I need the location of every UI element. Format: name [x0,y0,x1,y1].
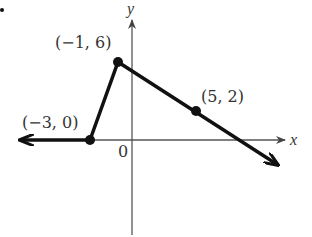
point-label-neg1-6: (−1, 6) [55,33,111,52]
point-label-5-2: (5, 2) [201,87,244,106]
point-neg1-6 [113,57,123,67]
piecewise-graph: y x 0 (−1, 6) (−3, 0) (5, 2) [0,0,312,237]
point-neg3-0 [85,135,95,145]
point-label-neg3-0: (−3, 0) [22,113,78,132]
x-axis-label: x [289,131,297,148]
y-axis-label: y [125,0,135,18]
point-5-2 [191,106,201,116]
origin-label: 0 [118,142,128,161]
stray-dot [0,8,4,12]
